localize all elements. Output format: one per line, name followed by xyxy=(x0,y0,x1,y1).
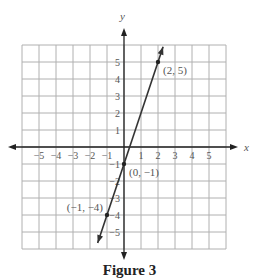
y-tick-label: −4 xyxy=(109,210,120,221)
y-tick-label: −1 xyxy=(109,159,120,170)
x-tick-label: 2 xyxy=(156,150,161,161)
x-tick-label: 1 xyxy=(139,150,144,161)
line-arrow-up-icon xyxy=(158,47,164,56)
point-label: (0, −1) xyxy=(129,166,159,179)
x-tick-label: 4 xyxy=(190,150,195,161)
figure-caption: Figure 3 xyxy=(0,262,259,279)
x-axis-label: x xyxy=(243,141,249,153)
x-tick-label: −5 xyxy=(34,150,45,161)
data-point-marker xyxy=(122,162,126,166)
x-tick-label: −2 xyxy=(85,150,96,161)
y-tick-label: 3 xyxy=(115,91,120,102)
line-plot: (2, 5)(0, −1)(−1, −4) xyxy=(67,47,187,243)
point-label: (2, 5) xyxy=(163,64,187,77)
y-axis-label: y xyxy=(119,10,125,22)
x-tick-label: 3 xyxy=(173,150,178,161)
x-tick-label: 5 xyxy=(207,150,212,161)
y-tick-label: 4 xyxy=(115,74,120,85)
x-tick-label: −4 xyxy=(51,150,62,161)
x-axis-right-arrow-icon xyxy=(230,144,238,150)
y-axis-up-arrow-icon xyxy=(121,28,127,36)
x-axis-left-arrow-icon xyxy=(8,144,16,150)
point-label: (−1, −4) xyxy=(67,201,104,214)
y-tick-label: 5 xyxy=(115,57,120,68)
y-tick-label: 1 xyxy=(115,125,120,136)
y-axis-down-arrow-icon xyxy=(121,252,127,260)
coordinate-plane: xy −5−4−3−2−11234554321−1−2−3−4−5 (2, 5)… xyxy=(0,0,259,280)
x-tick-label: −3 xyxy=(68,150,79,161)
y-tick-label: −5 xyxy=(109,227,120,238)
data-point-marker xyxy=(105,213,109,217)
axes: xy xyxy=(8,10,249,260)
y-tick-label: 2 xyxy=(115,108,120,119)
line-arrow-down-icon xyxy=(97,235,103,244)
data-point-marker xyxy=(156,60,160,64)
